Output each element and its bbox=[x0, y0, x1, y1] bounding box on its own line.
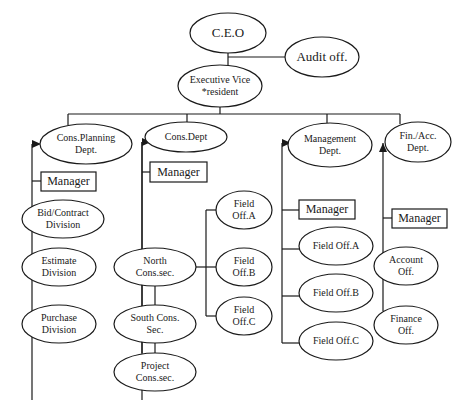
node-mgr2 bbox=[150, 162, 207, 182]
node-estimate bbox=[22, 248, 96, 286]
node-finance bbox=[374, 306, 438, 344]
node-audit bbox=[285, 37, 359, 77]
node-foa-right bbox=[299, 227, 373, 265]
node-foc-left bbox=[216, 297, 272, 335]
org-chart: C.E.OAudit off.Executive Vice *residentC… bbox=[0, 0, 467, 406]
node-cons-dept bbox=[145, 122, 227, 152]
node-finacc bbox=[385, 122, 451, 162]
node-north bbox=[114, 248, 196, 286]
node-foa-left bbox=[216, 191, 272, 229]
node-management bbox=[288, 123, 372, 167]
node-evp bbox=[178, 65, 262, 107]
node-fob-right bbox=[299, 274, 373, 312]
node-south bbox=[114, 305, 196, 343]
node-foc-right bbox=[299, 322, 373, 360]
node-ceo bbox=[190, 13, 266, 53]
node-cons-planning bbox=[40, 124, 132, 164]
org-chart-canvas bbox=[0, 0, 467, 406]
node-bid bbox=[22, 200, 104, 238]
node-fob-left bbox=[216, 248, 272, 286]
node-purchase bbox=[22, 305, 96, 343]
node-mgr1 bbox=[41, 172, 96, 191]
node-account bbox=[374, 247, 438, 285]
node-project bbox=[114, 353, 196, 391]
node-mgr4 bbox=[392, 209, 447, 228]
node-mgr3 bbox=[299, 200, 355, 219]
